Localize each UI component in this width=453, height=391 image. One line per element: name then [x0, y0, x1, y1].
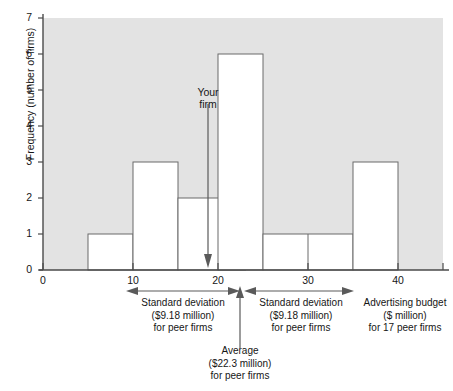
sd-left-line2: ($9.18 million)	[152, 310, 215, 321]
your-firm-label-line1: Your	[197, 86, 218, 98]
sd-left-line3: for peer firms	[154, 322, 213, 333]
y-tick-6: 6	[16, 48, 32, 59]
bar-bin-35-40	[353, 162, 398, 270]
sd-right-line3: for peer firms	[272, 322, 331, 333]
x-axis-title: Advertising budget ($ million) for 17 pe…	[357, 297, 453, 335]
y-tick-5: 5	[16, 84, 32, 95]
your-firm-label: Your firm	[183, 86, 233, 110]
y-tick-2: 2	[16, 192, 32, 203]
x-axis-title-line1: Advertising budget	[364, 297, 447, 308]
bar-bin-10-15	[133, 162, 178, 270]
average-caption: Average ($22.3 million) for peer firms	[180, 345, 300, 383]
sd-right-caption: Standard deviation ($9.18 million) for p…	[243, 297, 359, 335]
x-axis-title-line2: ($ million)	[383, 310, 426, 321]
y-tick-0: 0	[16, 264, 32, 275]
y-tick-3: 3	[16, 156, 32, 167]
average-line2: ($22.3 million)	[209, 358, 272, 369]
y-tick-1: 1	[16, 228, 32, 239]
sd-left-caption: Standard deviation ($9.18 million) for p…	[125, 297, 241, 335]
sd-right-line2: ($9.18 million)	[270, 310, 333, 321]
x-tick-20: 20	[205, 275, 231, 286]
average-line3: for peer firms	[211, 370, 270, 381]
sd-right-line1: Standard deviation	[259, 297, 342, 308]
y-tick-4: 4	[16, 120, 32, 131]
sd-left-line1: Standard deviation	[141, 297, 224, 308]
sd-right-arrow	[244, 287, 354, 295]
sd-left-arrow	[126, 287, 240, 295]
x-tick-0: 0	[30, 275, 56, 286]
your-firm-label-line2: firm	[199, 98, 217, 110]
y-axis-ticks	[38, 18, 43, 270]
y-tick-7: 7	[16, 12, 32, 23]
bar-bin-5-10	[88, 234, 133, 270]
average-line1: Average	[221, 345, 258, 356]
x-axis-title-line3: for 17 peer firms	[369, 322, 442, 333]
x-tick-10: 10	[120, 275, 146, 286]
x-tick-40: 40	[385, 275, 411, 286]
x-tick-30: 30	[295, 275, 321, 286]
